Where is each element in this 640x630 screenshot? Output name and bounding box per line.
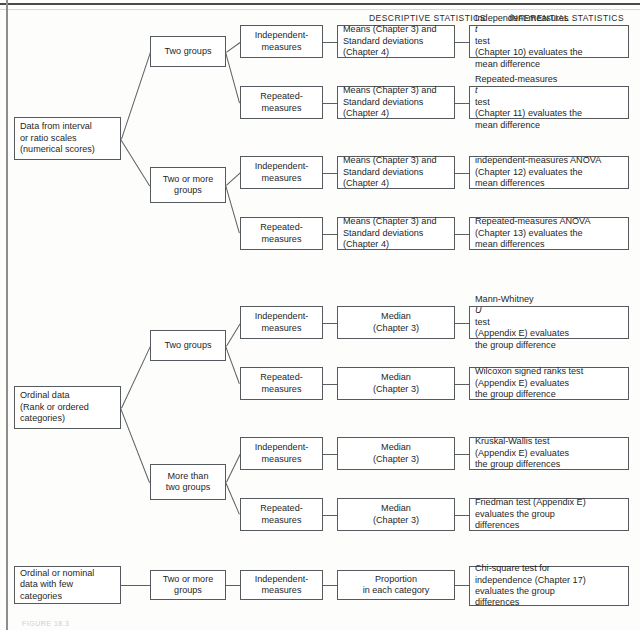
connector-root-to-branch-ordinal-1 (120, 408, 150, 483)
connector-design-to-descriptive-interval-ratio-0-0 (323, 42, 337, 43)
page-edge-left (6, 0, 8, 630)
connector-descriptive-to-inferential-ordinal-1-1 (455, 515, 469, 516)
inferential-node-ordinal-1-1: Friedman test (Appendix E)evaluates the … (469, 498, 629, 531)
descriptive-node-ordinal-0-0: Median(Chapter 3) (337, 306, 455, 339)
design-node-nominal-0-0: Independent-measures (240, 570, 323, 600)
descriptive-node-ordinal-1-0: Median(Chapter 3) (337, 437, 455, 470)
descriptive-node-interval-ratio-1-1: Means (Chapter 3) andStandard deviations… (337, 217, 455, 250)
connector-branch-to-design-interval-ratio-1-0 (226, 173, 241, 186)
connector-branch-to-design-interval-ratio-0-1 (225, 52, 240, 103)
inferential-node-interval-ratio-1-1: Repeated-measures ANOVA(Chapter 13) eval… (469, 217, 629, 250)
connector-descriptive-to-inferential-ordinal-0-1 (455, 384, 469, 385)
figure-canvas: DESCRIPTIVE STATISTICS INFERENTIAL STATI… (0, 0, 640, 630)
connector-descriptive-to-inferential-nominal-0-0 (455, 585, 469, 586)
connector-branch-to-design-interval-ratio-1-1 (225, 185, 240, 234)
inferential-node-interval-ratio-1-0: independent-measures ANOVA(Chapter 12) e… (469, 156, 629, 189)
design-node-ordinal-1-1: Repeated-measures (240, 498, 323, 531)
connector-design-to-descriptive-interval-ratio-1-1 (323, 234, 337, 235)
inferential-node-nominal-0-0: Chi-square test forindependence (Chapter… (469, 566, 629, 606)
design-node-interval-ratio-0-1: Repeated-measures (240, 86, 323, 119)
connector-root-to-branch-interval-ratio-1 (120, 139, 150, 186)
design-node-interval-ratio-1-0: Independent-measures (240, 156, 323, 189)
connector-descriptive-to-inferential-interval-ratio-0-0 (455, 42, 469, 43)
connector-branch-to-design-ordinal-0-1 (225, 346, 240, 384)
descriptive-node-ordinal-1-1: Median(Chapter 3) (337, 498, 455, 531)
connector-design-to-descriptive-ordinal-1-1 (323, 515, 337, 516)
connector-design-to-descriptive-nominal-0-0 (323, 585, 337, 586)
inferential-node-ordinal-0-1: Wilcoxon signed ranks test(Appendix E) e… (469, 367, 629, 400)
connector-root-to-branch-ordinal-0 (121, 346, 151, 408)
design-node-interval-ratio-0-0: Independent-measures (240, 25, 323, 58)
connector-design-to-descriptive-ordinal-0-1 (323, 384, 337, 385)
design-node-ordinal-0-1: Repeated-measures (240, 367, 323, 400)
page-edge-top-secondary (0, 9, 640, 10)
connector-design-to-descriptive-ordinal-0-0 (323, 323, 337, 324)
descriptive-node-ordinal-0-1: Median(Chapter 3) (337, 367, 455, 400)
root-node-interval-ratio: Data from intervalor ratio scales(numeri… (14, 117, 121, 160)
connector-descriptive-to-inferential-ordinal-1-0 (455, 454, 469, 455)
root-node-ordinal: Ordinal data(Rank or orderedcategories) (14, 386, 121, 429)
connector-design-to-descriptive-interval-ratio-0-1 (323, 103, 337, 104)
branch-node-ordinal-1: More thantwo groups (150, 464, 226, 500)
connector-descriptive-to-inferential-interval-ratio-0-1 (455, 103, 469, 104)
connector-design-to-descriptive-ordinal-1-0 (323, 454, 337, 455)
connector-branch-to-design-nominal-0-0 (226, 585, 240, 586)
branch-node-interval-ratio-0: Two groups (150, 36, 226, 67)
design-node-interval-ratio-1-1: Repeated-measures (240, 217, 323, 250)
connector-branch-to-design-interval-ratio-0-0 (226, 42, 241, 53)
branch-node-interval-ratio-1: Two or moregroups (150, 167, 226, 203)
figure-caption: FIGURE 18.3 (22, 620, 70, 627)
descriptive-node-interval-ratio-0-1: Means (Chapter 3) andStandard deviations… (337, 86, 455, 119)
inferential-node-interval-ratio-0-0: Independent-measures t test(Chapter 10) … (469, 25, 629, 58)
branch-node-nominal-0: Two or moregroups (150, 570, 226, 600)
branch-node-ordinal-0: Two groups (150, 330, 226, 361)
connector-branch-to-design-ordinal-1-0 (226, 454, 241, 483)
column-header-descriptive: DESCRIPTIVE STATISTICS (369, 13, 486, 23)
descriptive-node-interval-ratio-0-0: Means (Chapter 3) andStandard deviations… (337, 25, 455, 58)
root-node-nominal: Ordinal or nominaldata with fewcategorie… (14, 566, 121, 604)
descriptive-node-interval-ratio-1-0: Means (Chapter 3) andStandard deviations… (337, 156, 455, 189)
connector-descriptive-to-inferential-ordinal-0-0 (455, 323, 469, 324)
connector-design-to-descriptive-interval-ratio-1-0 (323, 173, 337, 174)
inferential-node-ordinal-0-0: Mann-Whitney U test(Appendix E) evaluate… (469, 306, 629, 339)
design-node-ordinal-1-0: Independent-measures (240, 437, 323, 470)
connector-root-to-branch-interval-ratio-0 (121, 52, 151, 139)
inferential-node-interval-ratio-0-1: Repeated-measures t test(Chapter 11) eva… (469, 86, 629, 119)
descriptive-node-nominal-0-0: Proportionin each category (337, 570, 455, 600)
connector-branch-to-design-ordinal-0-0 (226, 323, 241, 347)
design-node-ordinal-0-0: Independent-measures (240, 306, 323, 339)
connector-branch-to-design-ordinal-1-1 (225, 482, 240, 515)
connector-root-to-branch-nominal-0 (121, 585, 150, 586)
inferential-node-ordinal-1-0: Kruskal-Wallis test(Appendix E) evaluate… (469, 437, 629, 470)
connector-descriptive-to-inferential-interval-ratio-1-1 (455, 234, 469, 235)
connector-descriptive-to-inferential-interval-ratio-1-0 (455, 173, 469, 174)
page-edge-top (0, 3, 640, 5)
